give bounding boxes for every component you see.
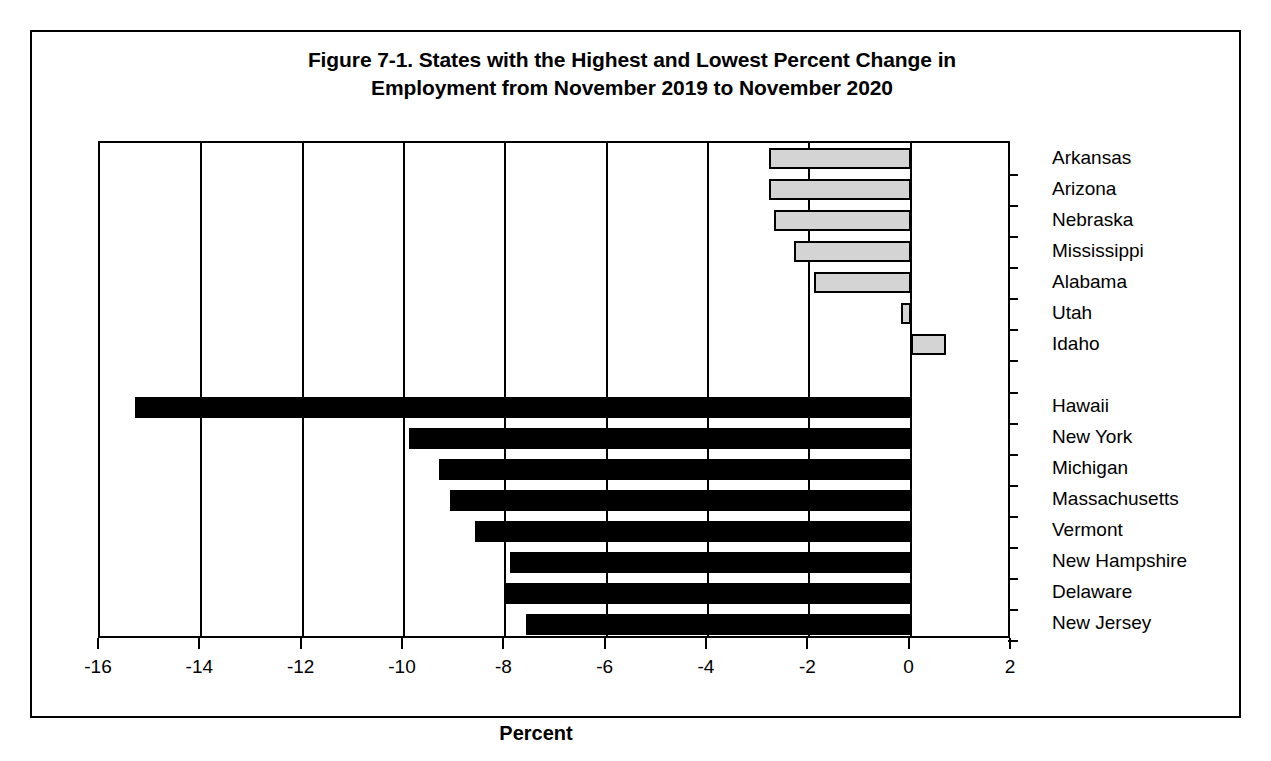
y-axis-tick [1008,423,1018,425]
x-axis-tick [502,638,504,649]
x-axis-title: Percent [32,722,1040,745]
category-label-new-jersey: New Jersey [1052,613,1151,632]
gridline-neg12 [302,143,304,636]
x-axis-tick [198,638,200,649]
x-axis-tick [705,638,707,649]
x-axis-tick [908,638,910,649]
category-label-mississippi: Mississippi [1052,241,1144,260]
y-axis-tick [1008,329,1018,331]
gridline-neg10 [403,143,405,636]
category-label-michigan: Michigan [1052,458,1128,477]
x-axis-tick-label: -16 [68,657,128,676]
y-axis-tick [1008,174,1018,176]
bar-arkansas [769,148,911,169]
bar-massachusetts [450,490,911,511]
y-axis-tick [1008,485,1018,487]
bar-idaho [911,334,946,355]
bar-new-jersey [526,614,911,635]
gridline-neg14 [200,143,202,636]
bar-alabama [814,272,910,293]
bar-new-york [409,428,911,449]
bar-delaware [505,583,910,604]
x-axis-tick-label: -12 [271,657,331,676]
x-axis-tick-label: 0 [879,657,939,676]
y-axis-tick [1008,609,1018,611]
x-axis-tick [97,638,99,649]
category-label-vermont: Vermont [1052,520,1123,539]
bar-new-hampshire [510,552,910,573]
category-label-utah: Utah [1052,303,1092,322]
gridline-neg8 [504,143,506,636]
category-label-new-york: New York [1052,427,1132,446]
x-axis-tick-label: -14 [169,657,229,676]
x-axis-tick-label: -6 [575,657,635,676]
y-axis-tick [1008,205,1018,207]
bar-michigan [439,459,910,480]
category-label-arkansas: Arkansas [1052,148,1131,167]
figure-title: Figure 7-1. States with the Highest and … [152,46,1112,102]
y-axis-tick [1008,547,1018,549]
figure-title-line-1: Figure 7-1. States with the Highest and … [152,46,1112,74]
x-axis-tick [604,638,606,649]
x-axis-tick [300,638,302,649]
x-axis-tick-label: -2 [777,657,837,676]
bar-arizona [769,179,911,200]
category-label-idaho: Idaho [1052,334,1100,353]
y-axis-tick [1008,360,1018,362]
category-label-nebraska: Nebraska [1052,210,1133,229]
category-label-hawaii: Hawaii [1052,396,1109,415]
y-axis-tick [1008,267,1018,269]
bar-vermont [475,521,911,542]
category-label-massachusetts: Massachusetts [1052,489,1179,508]
category-label-delaware: Delaware [1052,582,1132,601]
bar-utah [901,303,911,324]
x-axis-tick-label: -10 [372,657,432,676]
x-axis-tick-label: -4 [676,657,736,676]
y-axis-tick [1008,236,1018,238]
bar-hawaii [135,397,910,418]
y-axis-tick [1008,578,1018,580]
x-axis-tick [806,638,808,649]
y-axis-tick [1008,516,1018,518]
x-axis-tick [1009,638,1011,649]
figure-frame: Figure 7-1. States with the Highest and … [30,30,1241,718]
y-axis-tick [1008,298,1018,300]
category-label-arizona: Arizona [1052,179,1116,198]
x-axis-tick [401,638,403,649]
chart-plot-area [98,141,1010,638]
bar-nebraska [774,210,911,231]
category-label-alabama: Alabama [1052,272,1127,291]
figure-title-line-2: Employment from November 2019 to Novembe… [152,74,1112,102]
x-axis-tick-label: -8 [473,657,533,676]
x-axis-tick-label: 2 [980,657,1040,676]
y-axis-tick [1008,454,1018,456]
bar-mississippi [794,241,911,262]
y-axis-tick [1008,392,1018,394]
category-label-new-hampshire: New Hampshire [1052,551,1187,570]
